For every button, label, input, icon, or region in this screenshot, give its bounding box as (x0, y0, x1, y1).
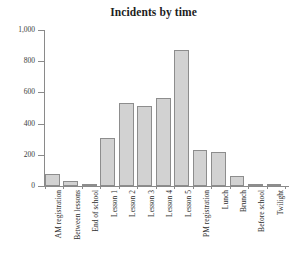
bar-series (45, 30, 285, 186)
y-axis-tick (38, 61, 44, 62)
bar[interactable] (230, 176, 245, 186)
y-axis-tick-label: 400 (0, 119, 35, 128)
bar[interactable] (211, 152, 226, 186)
y-axis-tick-label: 800 (0, 56, 35, 65)
x-axis-tick (267, 186, 268, 189)
bar[interactable] (174, 50, 189, 186)
y-axis-tick-label: 200 (0, 150, 35, 159)
bar-slot (248, 30, 263, 186)
chart-title: Incidents by time (0, 6, 307, 18)
bar[interactable] (137, 106, 152, 186)
bar[interactable] (119, 103, 134, 186)
x-axis-tick (248, 186, 249, 189)
bar[interactable] (45, 174, 60, 186)
bar[interactable] (193, 150, 208, 186)
x-axis-tick (45, 186, 46, 189)
x-axis-tick-label: Lesson 3 (148, 190, 156, 217)
bar-slot (156, 30, 171, 186)
x-axis-tick (285, 186, 286, 189)
bar-slot (211, 30, 226, 186)
x-axis-labels: AM registrationBetween lessonsEnd of sch… (45, 190, 285, 266)
x-axis-tick (193, 186, 194, 189)
bar-slot (100, 30, 115, 186)
bar-slot (174, 30, 189, 186)
bar-slot (119, 30, 134, 186)
x-axis-tick-label: End of school (92, 190, 100, 232)
bar-slot (63, 30, 78, 186)
bar[interactable] (63, 181, 78, 186)
x-axis-tick (230, 186, 231, 189)
x-axis-tick-label: Lesson 4 (166, 190, 174, 217)
bar[interactable] (248, 184, 263, 186)
x-axis-tick-label: Lunch (222, 190, 230, 209)
chart-container: Incidents by time 02004006008001,000 AM … (0, 0, 307, 266)
x-axis-tick (211, 186, 212, 189)
x-axis-tick-label: Twilight (277, 190, 285, 215)
bar-slot (137, 30, 152, 186)
x-axis-tick (63, 186, 64, 189)
x-axis-tick-label: Brunch (240, 190, 248, 212)
x-axis-tick (156, 186, 157, 189)
y-axis-tick (38, 92, 44, 93)
bar-slot (230, 30, 245, 186)
x-axis-tick-label: Between lessons (74, 190, 82, 240)
y-axis-tick (38, 155, 44, 156)
y-axis-tick (38, 124, 44, 125)
x-axis-tick-label: Lesson 5 (185, 190, 193, 217)
y-axis-tick-label: 0 (0, 181, 35, 190)
y-axis-tick (38, 30, 44, 31)
bar[interactable] (156, 98, 171, 186)
x-axis-tick-label: Lesson 2 (129, 190, 137, 217)
bar-slot (45, 30, 60, 186)
x-axis-tick (119, 186, 120, 189)
x-axis-tick (137, 186, 138, 189)
bar-slot (267, 30, 282, 186)
bar[interactable] (267, 184, 282, 186)
bar[interactable] (100, 138, 115, 186)
x-axis-tick-label: PM registration (203, 190, 211, 237)
bar[interactable] (82, 184, 97, 186)
x-axis-tick (100, 186, 101, 189)
x-axis-tick-label: Before school (258, 190, 266, 232)
bar-slot (82, 30, 97, 186)
x-axis-tick (82, 186, 83, 189)
x-axis-tick-label: Lesson 1 (111, 190, 119, 217)
x-axis-tick (174, 186, 175, 189)
x-axis-tick-label: AM registration (55, 190, 63, 238)
y-axis-tick-label: 600 (0, 87, 35, 96)
y-axis-tick-label: 1,000 (0, 25, 35, 34)
x-axis-line (44, 186, 289, 187)
y-axis-tick (38, 186, 44, 187)
bar-slot (193, 30, 208, 186)
